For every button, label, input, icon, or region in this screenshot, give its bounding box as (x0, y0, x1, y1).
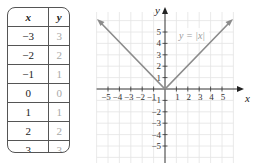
svg-text:−5: −5 (151, 141, 161, 151)
svg-text:3: 3 (157, 50, 162, 60)
y-axis-label: y (154, 4, 160, 16)
svg-text:5: 5 (221, 92, 226, 102)
svg-text:2: 2 (187, 92, 192, 102)
svg-text:−2: −2 (135, 92, 145, 102)
graph: −5 −4 −3 −2 −1 1 2 3 4 5 5 4 3 2 1 −1 −2… (0, 0, 261, 168)
svg-text:−3: −3 (151, 118, 161, 128)
svg-text:1: 1 (175, 92, 180, 102)
x-axis-label: x (244, 92, 250, 104)
svg-text:2: 2 (157, 61, 162, 71)
svg-text:5: 5 (157, 27, 162, 37)
svg-text:4: 4 (157, 38, 162, 48)
svg-text:−1: −1 (151, 95, 161, 105)
svg-text:−2: −2 (151, 107, 161, 117)
y-axis-arrow-icon (162, 7, 168, 14)
svg-text:4: 4 (209, 92, 214, 102)
svg-text:3: 3 (198, 92, 203, 102)
svg-text:−5: −5 (101, 92, 111, 102)
x-axis-arrow-icon (237, 86, 244, 92)
function-label: y = |x| (178, 30, 205, 41)
svg-text:−4: −4 (151, 130, 161, 140)
svg-text:−4: −4 (113, 92, 123, 102)
svg-text:−3: −3 (124, 92, 134, 102)
